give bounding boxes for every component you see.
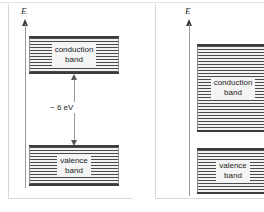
- energy-band-diagram: E conduction band ~ 6 eV valence band: [0, 0, 264, 212]
- panel-insulator: E conduction band ~ 6 eV valence band: [8, 4, 132, 199]
- energy-axis-right: [185, 18, 194, 196]
- conduction-band-label-right: conduction band: [212, 78, 255, 98]
- axis-shaft: [25, 24, 26, 188]
- axis-shaft: [189, 24, 190, 196]
- conduction-band-block-left: conduction band: [29, 36, 119, 74]
- valence-band-label-line2: band: [60, 166, 88, 176]
- conduction-band-label-line1: conduction: [214, 78, 253, 88]
- conduction-band-label-line2: band: [55, 55, 94, 65]
- conduction-band-block-right: conduction band: [197, 44, 264, 132]
- conduction-band-label-line1: conduction: [55, 45, 94, 55]
- energy-axis-label-left: E: [21, 7, 27, 16]
- valence-band-label-line2: band: [219, 171, 247, 181]
- valence-band-label-left: valence band: [58, 156, 90, 176]
- band-gap-value-label: ~ 6 eV: [47, 102, 76, 113]
- top-divider-rule: [0, 2, 264, 3]
- valence-band-label-line1: valence: [219, 161, 247, 171]
- energy-axis-label-right: E: [185, 7, 191, 16]
- valence-band-label-line1: valence: [60, 156, 88, 166]
- conduction-band-label-line2: band: [214, 88, 253, 98]
- valence-band-block-right: valence band: [197, 148, 264, 194]
- valence-band-block-left: valence band: [29, 145, 119, 186]
- panel-semiconductor: E conduction band valence band: [155, 4, 264, 199]
- valence-band-label-right: valence band: [217, 161, 249, 181]
- conduction-band-label-left: conduction band: [53, 45, 96, 65]
